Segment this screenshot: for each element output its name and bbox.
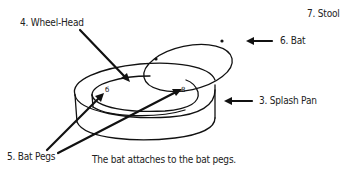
label-bat-pegs: 5. Bat Pegs (7, 151, 55, 162)
label-splash-pan: 3. Splash Pan (259, 95, 317, 106)
caption: The bat attaches to the bat pegs. (92, 154, 236, 165)
bat-shape (139, 37, 236, 99)
label-stool: 7. Stool (307, 8, 340, 19)
label-wheel-head: 4. Wheel-Head (20, 17, 84, 28)
bat-peg-arrow-1 (47, 97, 100, 150)
svg-text:8: 8 (181, 86, 185, 94)
svg-text:б: б (105, 86, 109, 94)
wheel-head-rim (92, 76, 150, 95)
label-bat: 6. Bat (280, 35, 305, 46)
